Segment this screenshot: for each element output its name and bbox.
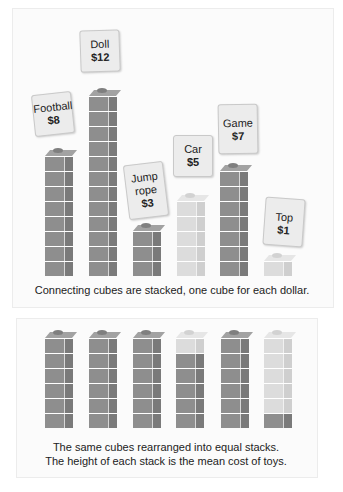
cube <box>176 338 203 353</box>
cube <box>89 96 116 111</box>
toy-card-jump-rope: Jump rope $3 <box>123 161 169 220</box>
cube <box>177 201 204 216</box>
cube-knob <box>264 255 291 261</box>
cube-knob <box>45 332 72 338</box>
cube <box>133 383 160 398</box>
cube-knob <box>177 195 204 201</box>
cube <box>89 201 116 216</box>
cube <box>133 338 160 353</box>
stack-car <box>177 195 204 276</box>
cube <box>45 368 72 383</box>
cube <box>220 186 247 201</box>
cube <box>264 261 291 276</box>
toy-card-top: Top $1 <box>262 197 305 248</box>
cube <box>45 398 72 413</box>
cube <box>45 186 72 201</box>
cube <box>177 246 204 261</box>
cube <box>45 171 72 186</box>
cube <box>89 261 116 276</box>
cube <box>89 156 116 171</box>
cube <box>176 353 203 368</box>
cube <box>89 398 116 413</box>
cube <box>220 201 247 216</box>
cube <box>45 246 72 261</box>
cube <box>264 353 291 368</box>
cube <box>45 156 72 171</box>
cube <box>89 338 116 353</box>
bottom-caption-line1: The same cubes rearranged into equal sta… <box>16 441 316 454</box>
cube <box>220 216 247 231</box>
toy-price: $7 <box>219 130 257 144</box>
cube <box>133 231 160 246</box>
stack-jump-rope <box>133 225 160 276</box>
cube-knob <box>45 150 72 156</box>
stack-top <box>264 255 291 276</box>
toy-price: $1 <box>264 223 303 239</box>
cube <box>220 246 247 261</box>
cube <box>220 261 247 276</box>
cube <box>177 216 204 231</box>
cube <box>133 353 160 368</box>
cube <box>133 261 160 276</box>
cube <box>45 383 72 398</box>
cube-knob <box>133 225 160 231</box>
cube <box>264 398 291 413</box>
cube <box>89 141 116 156</box>
cube <box>89 231 116 246</box>
cube <box>264 383 291 398</box>
mean-stack-2 <box>89 332 116 428</box>
cube <box>89 353 116 368</box>
cube <box>89 111 116 126</box>
cube <box>45 231 72 246</box>
stack-doll <box>89 90 116 276</box>
cube <box>89 216 116 231</box>
cube <box>220 231 247 246</box>
cube-knob <box>133 332 160 338</box>
cube <box>89 126 116 141</box>
bottom-caption-line2: The height of each stack is the mean cos… <box>16 455 316 468</box>
cube <box>221 398 248 413</box>
cube-knob <box>89 90 116 96</box>
cube-knob <box>89 332 116 338</box>
cube <box>221 338 248 353</box>
mean-stack-6 <box>264 332 291 428</box>
cube <box>176 398 203 413</box>
toy-card-football: Football $8 <box>31 91 75 137</box>
toy-name: Game <box>219 117 257 131</box>
cube-knob <box>220 165 247 171</box>
toy-name: Jump rope <box>129 169 162 198</box>
cube <box>133 246 160 261</box>
cube <box>45 216 72 231</box>
cube <box>221 413 248 428</box>
cube <box>45 338 72 353</box>
cube <box>45 261 72 276</box>
toy-name: Doll <box>81 37 119 51</box>
mean-stack-5 <box>221 332 248 428</box>
cube <box>45 201 72 216</box>
cube <box>89 413 116 428</box>
toy-card-doll: Doll $12 <box>79 29 120 72</box>
cube <box>177 261 204 276</box>
cube <box>45 353 72 368</box>
cube <box>221 368 248 383</box>
mean-stack-4 <box>176 332 203 428</box>
cube-knob <box>264 332 291 338</box>
toy-name: Car <box>174 143 212 156</box>
cube <box>264 413 291 428</box>
cube-knob <box>221 332 248 338</box>
cube <box>221 353 248 368</box>
cube <box>89 171 116 186</box>
mean-stack-3 <box>133 332 160 428</box>
toy-card-car: Car $5 <box>173 135 213 177</box>
mean-stack-1 <box>45 332 72 428</box>
cube <box>220 171 247 186</box>
cube <box>133 398 160 413</box>
cube <box>264 338 291 353</box>
cube <box>89 383 116 398</box>
toy-price: $12 <box>81 50 119 64</box>
cube <box>176 368 203 383</box>
cube <box>89 246 116 261</box>
cube <box>264 368 291 383</box>
cube <box>89 186 116 201</box>
toy-card-game: Game $7 <box>218 104 259 155</box>
